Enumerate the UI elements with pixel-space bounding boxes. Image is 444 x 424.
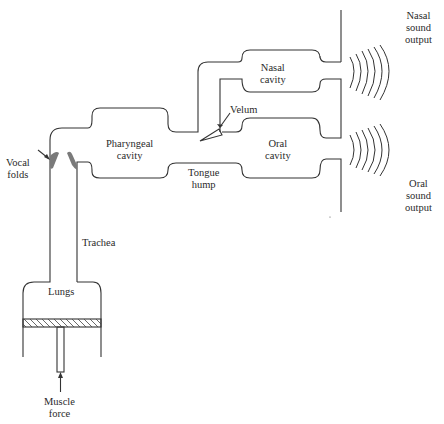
- label-muscle-force: Muscle force: [44, 396, 75, 420]
- label-pharyngeal-cavity: Pharyngeal cavity: [106, 138, 153, 162]
- label-trachea: Trachea: [82, 237, 115, 249]
- label-oral-cavity: Oral cavity: [265, 138, 291, 162]
- pharyngeal-cavity-outline: [88, 50, 341, 132]
- muscle-force-arrowhead: [58, 372, 63, 378]
- label-tongue-hump: Tongue hump: [188, 167, 219, 191]
- piston-rod: [57, 327, 64, 372]
- label-velum: Velum: [230, 104, 257, 116]
- oral-sound-waves: [350, 124, 389, 176]
- nasal-sound-waves: [350, 45, 389, 100]
- speech-production-diagram: [0, 0, 444, 424]
- label-nasal-cavity: Nasal cavity: [260, 62, 286, 86]
- label-nasal-sound-output: Nasal sound output: [405, 10, 432, 46]
- vocal-fold-left: [50, 152, 59, 169]
- label-vocal-folds: Vocal folds: [6, 157, 30, 181]
- vocal-fold-right: [67, 152, 77, 170]
- velum-flap: [200, 129, 222, 141]
- label-oral-sound-output: Oral sound output: [405, 178, 432, 214]
- trachea-inner: [77, 162, 88, 282]
- diaphragm-piston: [23, 319, 101, 327]
- label-lungs: Lungs: [48, 286, 74, 298]
